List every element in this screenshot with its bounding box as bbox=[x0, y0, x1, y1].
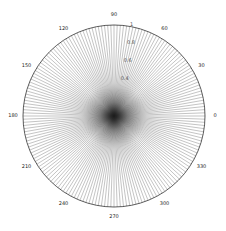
radial-tick-label: 1 bbox=[130, 21, 133, 27]
angle-tick-label: 180 bbox=[8, 112, 18, 118]
angle-tick-label: 60 bbox=[161, 25, 167, 31]
polar-chart: 0306090120150180210240270300330 0.40.60.… bbox=[0, 0, 226, 231]
angle-tick-label: 240 bbox=[59, 200, 69, 206]
angle-tick-label: 0 bbox=[213, 112, 216, 118]
angle-tick-label: 210 bbox=[22, 163, 32, 169]
angle-tick-label: 30 bbox=[198, 62, 204, 68]
angle-tick-label: 120 bbox=[59, 25, 69, 31]
angle-tick-label: 270 bbox=[109, 213, 119, 219]
center-density bbox=[59, 61, 168, 170]
angle-tick-label: 330 bbox=[197, 163, 207, 169]
angle-tick-label: 150 bbox=[22, 62, 32, 68]
radial-tick-label: 0.6 bbox=[124, 57, 132, 63]
angle-tick-label: 300 bbox=[160, 200, 170, 206]
angle-tick-label: 90 bbox=[111, 11, 117, 17]
radial-tick-label: 0.8 bbox=[127, 39, 135, 45]
radial-tick-label: 0.4 bbox=[121, 75, 129, 81]
